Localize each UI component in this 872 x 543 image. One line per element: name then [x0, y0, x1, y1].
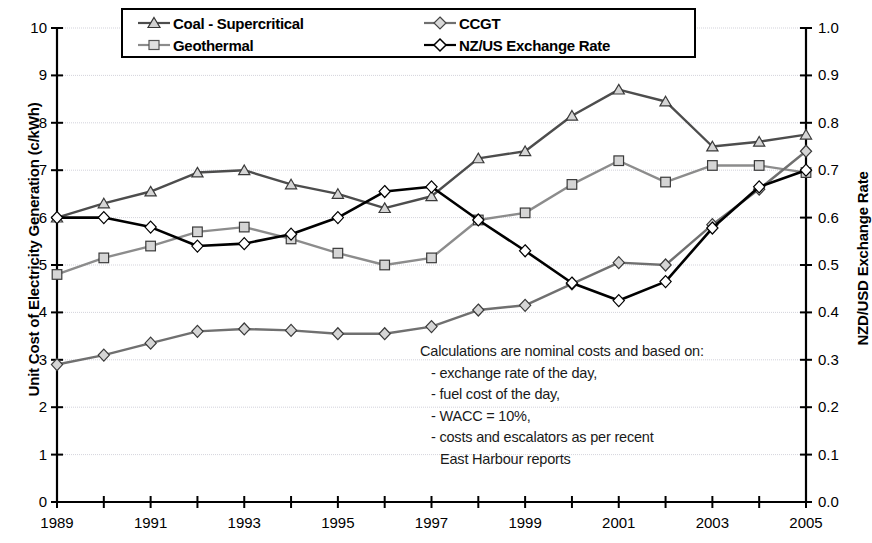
legend-item-geothermal: Geothermal [137, 37, 253, 54]
triangle-marker-icon [137, 15, 171, 31]
annotation-line: - fuel cost of the day, [420, 384, 800, 406]
data-point [333, 248, 343, 258]
data-point [379, 186, 390, 198]
data-point [239, 238, 250, 250]
chart-annotation: Calculations are nominal costs and based… [420, 341, 800, 470]
legend-label: Geothermal [173, 37, 253, 54]
data-point [145, 337, 156, 349]
annotation-line: East Harbour reports [420, 449, 800, 471]
data-point [520, 208, 530, 218]
data-point [52, 270, 62, 280]
data-point [332, 328, 343, 340]
diamond-marker-icon [423, 37, 457, 53]
diamond-marker-icon [423, 15, 457, 31]
data-point [145, 221, 156, 233]
data-point [192, 240, 203, 252]
data-point [708, 161, 718, 171]
annotation-line: Calculations are nominal costs and based… [420, 341, 800, 363]
legend-label: CCGT [459, 15, 500, 32]
data-point [567, 180, 577, 190]
square-marker-icon [137, 37, 171, 53]
data-point [239, 323, 250, 335]
data-point [426, 321, 437, 333]
chart-container: Unit Cost of Electricity Generation (c/k… [0, 0, 872, 543]
data-point [614, 156, 624, 166]
data-point [332, 212, 343, 224]
series-coal-supercritical [51, 84, 811, 222]
data-point [98, 212, 109, 224]
data-point [146, 241, 156, 251]
chart-legend: Coal - Supercritical CCGT [121, 8, 696, 58]
data-point [380, 260, 390, 270]
data-point [566, 110, 577, 120]
annotation-line: - exchange rate of the day, [420, 363, 800, 385]
data-point [192, 325, 203, 337]
data-point [193, 227, 203, 237]
data-point [613, 295, 624, 307]
data-point [285, 324, 296, 336]
data-point [379, 328, 390, 340]
data-point [98, 349, 109, 361]
data-point [239, 222, 249, 232]
data-point [613, 84, 624, 94]
annotation-line: - WACC = 10%, [420, 406, 800, 428]
data-point [661, 177, 671, 187]
data-point [473, 304, 484, 316]
legend-label: Coal - Supercritical [173, 15, 304, 32]
data-point [427, 253, 437, 263]
data-point [99, 253, 109, 263]
data-series [51, 84, 811, 370]
legend-item-ccgt: CCGT [423, 15, 500, 32]
legend-label: NZ/US Exchange Rate [459, 37, 610, 54]
data-point [613, 257, 624, 269]
data-point [520, 299, 531, 311]
data-point [754, 161, 764, 171]
legend-item-nz-us-exchange-rate: NZ/US Exchange Rate [423, 37, 610, 54]
annotation-line: - costs and escalators as per recent [420, 427, 800, 449]
legend-item-coal-supercritical: Coal - Supercritical [137, 15, 304, 32]
